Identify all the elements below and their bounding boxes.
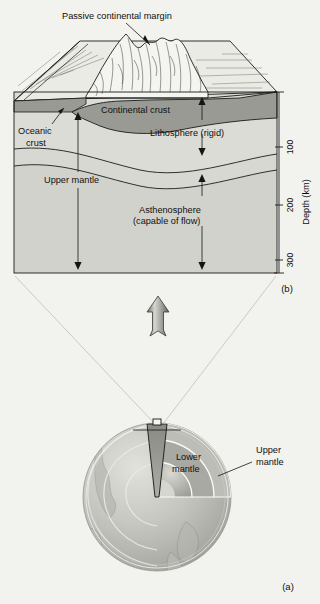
panel-label-a: (a) — [282, 581, 294, 592]
label-upper-mantle-line1: Upper — [256, 445, 281, 455]
depth-axis-title: Depth (km) — [301, 179, 311, 224]
panel-label-b: (b) — [281, 283, 293, 294]
depth-tick-label-300: 300 — [285, 253, 295, 268]
label-lower-mantle-line2: mantle — [172, 464, 200, 474]
label-passive-continental-margin: Passive continental margin — [62, 11, 172, 21]
up-arrow-icon — [147, 296, 169, 336]
label-oceanic-crust-line2: crust — [26, 138, 46, 148]
zoom-ray-left — [15, 276, 155, 424]
depth-tick-label-200: 200 — [285, 198, 295, 213]
block-diagram-panel: 100 200 300 Depth (km) Passive continent… — [14, 11, 311, 294]
label-oceanic-crust-line1: Oceanic — [18, 126, 52, 136]
geology-figure: 100 200 300 Depth (km) Passive continent… — [0, 0, 320, 604]
label-asthenosphere-line1: Asthenosphere — [139, 205, 201, 215]
globe-panel: Lower mantle Upper mantle (a) — [83, 419, 294, 592]
zoom-area-marker — [153, 419, 161, 425]
depth-axis: 100 200 300 Depth (km) — [274, 92, 311, 273]
depth-tick-label-100: 100 — [285, 140, 295, 155]
label-lower-mantle-line1: Lower — [176, 452, 201, 462]
label-continental-crust: Continental crust — [101, 105, 170, 115]
label-lithosphere: Lithosphere (rigid) — [150, 128, 224, 138]
label-asthenosphere-line2: (capable of flow) — [133, 216, 200, 226]
label-upper-mantle-line2: mantle — [256, 457, 284, 467]
label-upper-mantle: Upper mantle — [44, 175, 99, 185]
zoom-ray-right — [163, 276, 276, 424]
zoom-connector — [15, 276, 276, 424]
